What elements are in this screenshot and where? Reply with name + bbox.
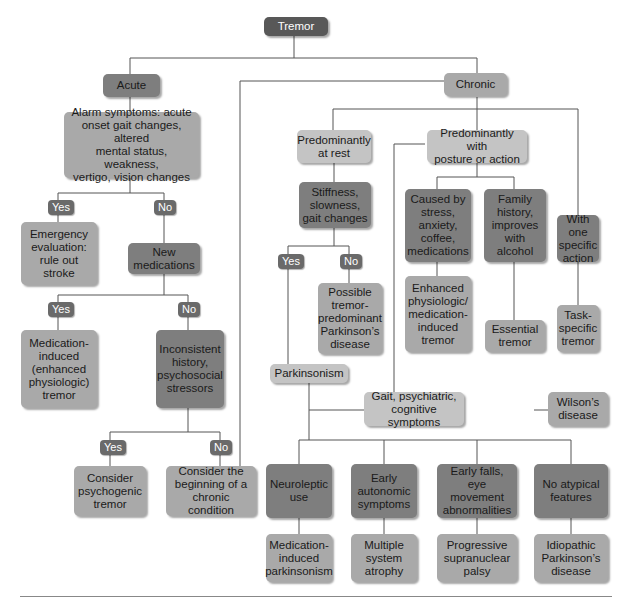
node-multiple-system-atrophy: Multiple system atrophy (351, 534, 417, 582)
node-progressive-supranuclear-palsy: Progressive supranuclear palsy (437, 534, 517, 582)
tag-yes: Yes (48, 200, 74, 215)
node-alarm-symptoms: Alarm symptoms: acute onset gait changes… (64, 112, 199, 178)
node-posture-or-action: Predominantly with posture or action (427, 130, 527, 163)
node-idiopathic-parkinsons: Idiopathic Parkinson’s disease (534, 534, 608, 582)
node-gait-psychiatric: Gait, psychiatric, cognitive symptoms (364, 392, 464, 426)
node-stiffness-slowness: Stiffness, slowness, gait changes (299, 182, 371, 228)
node-no-atypical: No atypical features (534, 464, 608, 518)
node-acute: Acute (103, 74, 160, 97)
tag-yes: Yes (100, 440, 126, 455)
node-enhanced-physiologic: Enhanced physiologic/ medication- induce… (405, 276, 471, 352)
node-tremor: Tremor (264, 17, 328, 36)
node-essential-tremor: Essential tremor (485, 320, 545, 352)
node-one-specific-action: With one specific action (557, 215, 599, 262)
node-emergency-evaluation: Emergency evaluation: rule out stroke (21, 222, 97, 285)
node-possible-parkinsons: Possible tremor- predominant Parkinson’s… (318, 283, 382, 354)
node-inconsistent-history: Inconsistent history, psychosocial stres… (156, 330, 224, 408)
tag-no: No (178, 302, 200, 317)
node-family-history: Family history, improves with alcohol (484, 189, 546, 262)
tag-yes: Yes (48, 302, 74, 317)
node-early-falls: Early falls, eye movement abnormalities (437, 464, 517, 518)
node-new-medications: New medications (128, 243, 200, 274)
node-beginning-chronic: Consider the beginning of a chronic cond… (166, 466, 256, 516)
node-early-autonomic: Early autonomic symptoms (351, 464, 417, 518)
tag-yes: Yes (278, 254, 304, 269)
tag-no: No (340, 254, 362, 269)
node-task-specific-tremor: Task- specific tremor (557, 305, 599, 352)
node-chronic: Chronic (444, 73, 507, 96)
node-caused-by-stress: Caused by stress, anxiety, coffee, medic… (405, 189, 471, 262)
tag-no: No (210, 440, 232, 455)
node-psychogenic-tremor: Consider psychogenic tremor (74, 466, 146, 516)
node-neuroleptic-use: Neuroleptic use (266, 464, 332, 518)
node-parkinsonism: Parkinsonism (270, 364, 348, 383)
tag-no: No (154, 200, 176, 215)
bottom-divider (20, 596, 350, 597)
node-medication-induced-parkinsonism: Medication- induced parkinsonism (266, 534, 332, 582)
node-medication-induced-tremor: Medication- induced (enhanced physiologi… (21, 330, 97, 408)
node-predominantly-at-rest: Predominantly at rest (297, 130, 371, 163)
bottom-divider (350, 596, 612, 597)
node-wilsons-disease: Wilson’s disease (548, 392, 608, 426)
